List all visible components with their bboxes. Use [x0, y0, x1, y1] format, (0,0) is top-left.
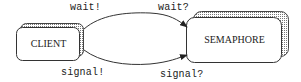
client-semaphore-diagram: CLIENT SEMAPHORE wait! wait? signal! sig…	[0, 0, 301, 82]
wait-receive-label: wait?	[158, 2, 189, 13]
client-label: CLIENT	[17, 38, 80, 50]
wait-edge	[84, 13, 187, 29]
signal-send-label: signal!	[61, 67, 104, 78]
signal-edge	[84, 50, 187, 64]
semaphore-label: SEMAPHORE	[187, 34, 282, 46]
signal-receive-label: signal?	[160, 69, 203, 80]
wait-send-label: wait!	[70, 2, 101, 13]
